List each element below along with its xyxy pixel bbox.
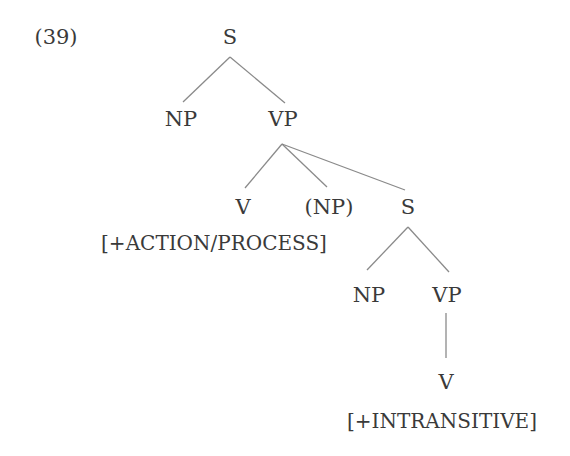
feature-action-process: [+ACTION/PROCESS] [101, 231, 327, 255]
node-np-optional: (NP) [305, 195, 354, 219]
tree-branches [0, 0, 570, 456]
branch-s2-np [367, 227, 408, 270]
node-vp-embedded: VP [432, 283, 461, 307]
node-s-embedded: S [401, 195, 415, 219]
branch-vp-v [245, 144, 282, 188]
branch-s-vp [230, 57, 285, 103]
branch-s-np [183, 57, 230, 102]
node-np-embedded: NP [353, 283, 386, 307]
node-np-subject: NP [165, 107, 198, 131]
example-number: (39) [34, 25, 77, 49]
syntax-tree-diagram: (39) S NP VP V (NP) S [+ACTION/PROCESS] … [0, 0, 570, 456]
branch-vp-s [282, 144, 405, 190]
node-v-embedded: V [438, 370, 453, 394]
node-vp-main: VP [268, 107, 297, 131]
node-s-root: S [223, 25, 237, 49]
branch-vp-np [282, 144, 327, 187]
branch-s2-vp [408, 227, 449, 272]
node-v-main: V [235, 195, 250, 219]
feature-intransitive: [+INTRANSITIVE] [347, 409, 537, 433]
